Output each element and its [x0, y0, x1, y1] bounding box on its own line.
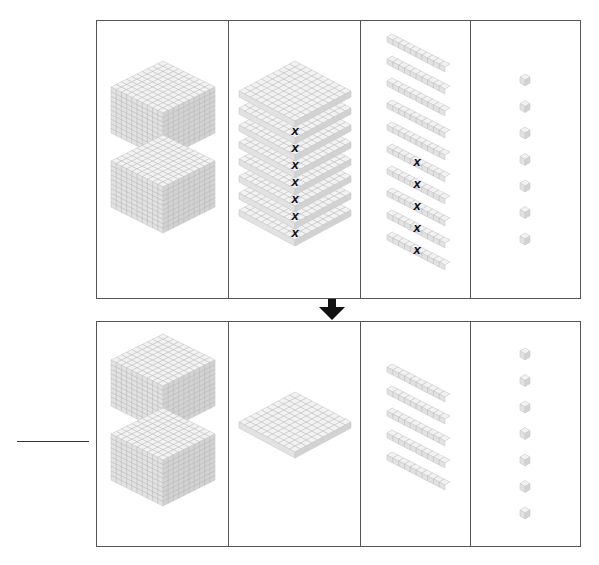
- svg-text:x: x: [290, 191, 299, 206]
- unit-cubes-icon: [471, 322, 580, 546]
- svg-text:x: x: [412, 154, 421, 169]
- svg-text:x: x: [290, 225, 299, 240]
- hundred-flats-stack-icon: xxxxxxx: [229, 21, 361, 298]
- after-panel: [96, 321, 581, 547]
- ten-rods-icon: xxxxx: [361, 21, 471, 298]
- ten-rods-icon: [361, 322, 471, 546]
- svg-text:x: x: [290, 174, 299, 189]
- svg-text:x: x: [290, 157, 299, 172]
- down-arrow-icon: [318, 299, 348, 321]
- svg-text:x: x: [290, 208, 299, 223]
- ones-column-before: [471, 21, 580, 298]
- thousands-column-before: [97, 21, 229, 298]
- svg-text:x: x: [290, 140, 299, 155]
- svg-text:x: x: [412, 176, 421, 191]
- hundred-flat-icon: [229, 322, 361, 546]
- tens-column-after: [361, 322, 471, 546]
- hundreds-column-before: xxxxxxx: [229, 21, 361, 298]
- answer-blank-line: [17, 441, 89, 442]
- svg-text:x: x: [412, 220, 421, 235]
- svg-text:x: x: [290, 123, 299, 138]
- ones-column-after: [471, 322, 580, 546]
- thousand-cubes-icon: [97, 322, 229, 546]
- hundreds-column-after: [229, 322, 361, 546]
- unit-cubes-icon: [471, 21, 580, 298]
- before-panel: xxxxxxx xxxxx: [96, 20, 581, 299]
- thousand-cubes-icon: [97, 21, 229, 298]
- tens-column-before: xxxxx: [361, 21, 471, 298]
- svg-text:x: x: [412, 198, 421, 213]
- svg-text:x: x: [412, 242, 421, 257]
- thousands-column-after: [97, 322, 229, 546]
